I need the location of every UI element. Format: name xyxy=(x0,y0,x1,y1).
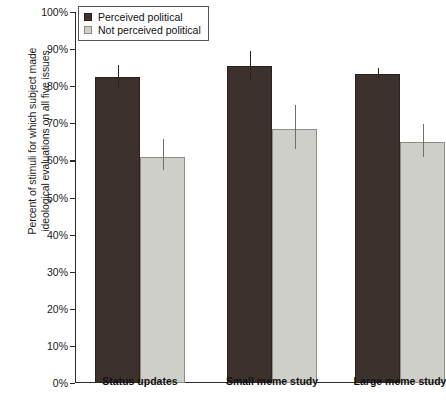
y-axis-line xyxy=(75,12,76,383)
bar xyxy=(140,157,185,383)
legend-swatch-light-icon xyxy=(84,26,92,34)
chart-legend: Perceived political Not perceived politi… xyxy=(78,6,209,41)
y-tick-label: 60% xyxy=(47,154,68,166)
y-tick-mark xyxy=(70,123,75,124)
y-tick-label: 0% xyxy=(53,377,68,389)
x-axis-group-label: Status updates xyxy=(102,375,177,387)
bar xyxy=(227,66,272,383)
error-bar xyxy=(378,68,379,82)
y-axis-title-line-1: Percent of stimuli for which subject mad… xyxy=(26,0,39,286)
legend-label: Perceived political xyxy=(98,11,183,23)
error-bar xyxy=(423,124,424,156)
y-tick-label: 50% xyxy=(47,192,68,204)
y-tick-label: 90% xyxy=(47,43,68,55)
y-tick-label: 40% xyxy=(47,229,68,241)
error-bar xyxy=(163,139,164,169)
legend-item-perceived-political: Perceived political xyxy=(84,10,201,23)
x-axis-group-label: Small meme study xyxy=(226,375,318,387)
y-tick-mark xyxy=(70,160,75,161)
bar xyxy=(95,77,140,383)
y-tick-label: 10% xyxy=(47,340,68,352)
error-bar xyxy=(250,51,251,81)
bar xyxy=(355,74,400,383)
y-tick-label: 70% xyxy=(47,117,68,129)
y-tick-mark xyxy=(70,346,75,347)
y-tick-mark xyxy=(70,198,75,199)
y-tick-mark xyxy=(70,272,75,273)
legend-swatch-dark-icon xyxy=(84,13,92,21)
error-bar xyxy=(295,105,296,150)
y-tick-mark xyxy=(70,49,75,50)
y-tick-label: 20% xyxy=(47,303,68,315)
y-tick-label: 80% xyxy=(47,80,68,92)
plot-area: 0%10%20%30%40%50%60%70%80%90%100% xyxy=(75,12,432,383)
legend-label: Not perceived political xyxy=(98,24,201,36)
y-tick-label: 100% xyxy=(41,6,68,18)
bar xyxy=(400,142,445,383)
y-tick-mark xyxy=(70,12,75,13)
y-tick-mark xyxy=(70,86,75,87)
y-tick-mark xyxy=(70,309,75,310)
y-tick-label: 30% xyxy=(47,266,68,278)
y-tick-mark xyxy=(70,235,75,236)
x-axis-group-label: Large meme study xyxy=(354,375,446,387)
bar xyxy=(272,129,317,384)
y-tick-mark xyxy=(70,383,75,384)
error-bar xyxy=(118,65,119,88)
legend-item-not-perceived-political: Not perceived political xyxy=(84,23,201,36)
